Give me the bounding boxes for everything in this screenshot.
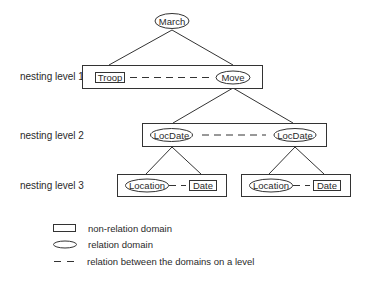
tree-edges — [109, 30, 324, 174]
root-node-march: March — [155, 14, 189, 29]
node-label-location: Location — [129, 180, 165, 191]
legend-label: non-relation domain — [88, 223, 172, 234]
level3-right-group: Location Date — [242, 175, 351, 197]
ellipse-icon — [54, 241, 77, 248]
edge-move-to-level2-right — [233, 88, 293, 123]
level-label-2: nesting level 2 — [20, 130, 84, 141]
level-label-1: nesting level 1 — [20, 71, 84, 82]
rectangle-icon — [54, 225, 76, 232]
node-label-locdate-left: LocDate — [154, 130, 189, 141]
nesting-diagram: March nesting level 1 nesting level 2 ne… — [0, 0, 368, 284]
legend-item-dashed-relation: relation between the domains on a level — [54, 256, 254, 267]
edge-locdate2-to-level3b-left — [269, 147, 295, 174]
node-label-date: Date — [193, 180, 213, 191]
node-label: March — [159, 16, 185, 27]
edge-march-to-level1-right — [172, 30, 233, 65]
legend-label: relation between the domains on a level — [87, 256, 254, 267]
node-label-locdate-right: LocDate — [277, 130, 312, 141]
node-label-troop: Troop — [98, 72, 122, 83]
legend-item-relation: relation domain — [54, 239, 153, 250]
node-label-date: Date — [317, 180, 337, 191]
level-label-3: nesting level 3 — [20, 180, 84, 191]
node-label-move: Move — [221, 72, 244, 83]
level2-group: LocDate LocDate — [143, 124, 327, 147]
level3-left-group: Location Date — [118, 175, 227, 197]
edge-march-to-level1-left — [109, 30, 172, 65]
node-label-location: Location — [253, 180, 289, 191]
edge-locdate1-to-level3a-right — [172, 147, 201, 174]
level1-group: Troop Move — [83, 66, 263, 89]
edge-locdate2-to-level3b-right — [295, 147, 324, 174]
diagram-svg: March nesting level 1 nesting level 2 ne… — [0, 0, 368, 284]
legend-label: relation domain — [88, 239, 153, 250]
edge-locdate1-to-level3a-left — [146, 147, 172, 174]
legend: non-relation domain relation domain rela… — [54, 223, 255, 267]
legend-item-non-relation: non-relation domain — [54, 223, 172, 234]
edge-move-to-level2-left — [173, 88, 233, 123]
